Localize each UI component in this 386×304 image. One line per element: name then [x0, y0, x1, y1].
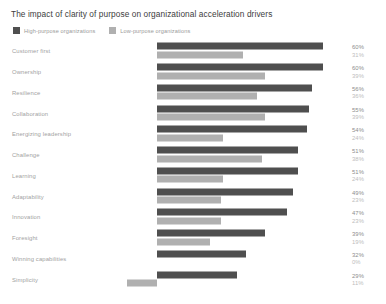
bar-low-purpose	[157, 155, 262, 162]
bar-row: Customer first60%31%	[0, 41, 386, 62]
category-label: Adaptability	[12, 194, 44, 200]
value-low-purpose: 23%	[352, 217, 378, 225]
chart-legend: High-purpose organizations Low-purpose o…	[13, 27, 386, 34]
chart-card: The impact of clarity of purpose on orga…	[0, 0, 386, 304]
bar-high-purpose	[157, 64, 323, 71]
value-low-purpose: 39%	[352, 114, 378, 122]
value-labels: 51%24%	[352, 168, 378, 183]
value-high-purpose: 54%	[352, 127, 378, 135]
category-label: Innovation	[12, 214, 40, 220]
bar-high-purpose	[157, 250, 246, 257]
value-labels: 49%23%	[352, 189, 378, 204]
bar-high-purpose	[157, 271, 237, 278]
bar-group	[157, 187, 337, 206]
bar-row: Energizing leadership54%24%	[0, 124, 386, 145]
bar-low-purpose	[157, 238, 210, 245]
bar-row: Collaboration55%39%	[0, 103, 386, 124]
value-labels: 47%23%	[352, 210, 378, 225]
bar-row: Simplicity29%11%	[0, 269, 386, 290]
bar-high-purpose	[157, 188, 293, 195]
category-label: Simplicity	[12, 277, 38, 283]
value-labels: 60%31%	[352, 44, 378, 59]
value-high-purpose: 39%	[352, 231, 378, 239]
bar-row: Challenge51%38%	[0, 145, 386, 166]
bar-low-purpose	[157, 217, 221, 224]
value-labels: 56%36%	[352, 85, 378, 100]
bar-high-purpose	[157, 209, 287, 216]
legend-label-low-purpose: Low-purpose organizations	[120, 28, 190, 34]
bar-row: Ownership60%39%	[0, 62, 386, 83]
value-high-purpose: 55%	[352, 106, 378, 114]
value-high-purpose: 49%	[352, 189, 378, 197]
category-label: Customer first	[12, 48, 50, 54]
bar-group	[157, 125, 337, 144]
bar-row: Winning capabilities32%0%	[0, 249, 386, 270]
value-low-purpose: 19%	[352, 238, 378, 246]
value-high-purpose: 51%	[352, 168, 378, 176]
category-label: Ownership	[12, 69, 41, 75]
bar-row: Resilience56%36%	[0, 83, 386, 104]
value-high-purpose: 60%	[352, 65, 378, 73]
value-high-purpose: 47%	[352, 210, 378, 218]
bar-group	[157, 63, 337, 82]
bar-high-purpose	[157, 43, 323, 50]
bar-high-purpose	[157, 230, 265, 237]
legend-item-high-purpose[interactable]: High-purpose organizations	[13, 27, 95, 34]
bar-group	[157, 42, 337, 61]
value-high-purpose: 56%	[352, 85, 378, 93]
category-label: Foresight	[12, 235, 38, 241]
bar-group	[157, 104, 337, 123]
category-label: Challenge	[12, 152, 40, 158]
category-label: Collaboration	[12, 111, 48, 117]
category-label: Winning capabilities	[12, 256, 66, 262]
value-low-purpose: 0%	[352, 259, 378, 267]
legend-item-low-purpose[interactable]: Low-purpose organizations	[109, 27, 190, 34]
value-low-purpose: 24%	[352, 134, 378, 142]
category-label: Energizing leadership	[12, 131, 71, 137]
value-low-purpose: 36%	[352, 93, 378, 101]
bar-row: Learning51%24%	[0, 166, 386, 187]
bar-high-purpose	[157, 126, 307, 133]
value-low-purpose: 39%	[352, 72, 378, 80]
bar-low-purpose	[157, 114, 265, 121]
bar-group	[157, 83, 337, 102]
bar-row: Foresight39%19%	[0, 228, 386, 249]
value-labels: 32%0%	[352, 251, 378, 266]
value-labels: 55%39%	[352, 106, 378, 121]
value-low-purpose: 24%	[352, 176, 378, 184]
chart-title: The impact of clarity of purpose on orga…	[11, 9, 386, 19]
bar-rows: Customer first60%31%Ownership60%39%Resil…	[0, 41, 386, 290]
bar-high-purpose	[157, 167, 298, 174]
bar-group	[157, 270, 337, 289]
bar-low-purpose	[127, 280, 157, 287]
value-labels: 51%38%	[352, 148, 378, 163]
bar-group	[157, 229, 337, 248]
bar-low-purpose	[157, 134, 223, 141]
bar-low-purpose	[157, 51, 243, 58]
bar-high-purpose	[157, 84, 312, 91]
value-low-purpose: 38%	[352, 155, 378, 163]
value-high-purpose: 51%	[352, 148, 378, 156]
bar-group	[157, 249, 337, 268]
value-high-purpose: 32%	[352, 251, 378, 259]
bar-low-purpose	[157, 197, 221, 204]
bar-high-purpose	[157, 147, 298, 154]
legend-label-high-purpose: High-purpose organizations	[24, 28, 95, 34]
bar-low-purpose	[157, 176, 223, 183]
bar-group	[157, 146, 337, 165]
bar-group	[157, 208, 337, 227]
bar-row: Adaptability49%23%	[0, 186, 386, 207]
category-label: Resilience	[12, 90, 40, 96]
bar-low-purpose	[157, 93, 257, 100]
category-label: Learning	[12, 173, 36, 179]
value-low-purpose: 31%	[352, 51, 378, 59]
value-high-purpose: 60%	[352, 44, 378, 52]
value-labels: 54%24%	[352, 127, 378, 142]
value-low-purpose: 11%	[352, 280, 378, 288]
value-labels: 60%39%	[352, 65, 378, 80]
value-low-purpose: 23%	[352, 197, 378, 205]
plot-area: Customer first60%31%Ownership60%39%Resil…	[0, 41, 386, 290]
bar-low-purpose	[157, 72, 265, 79]
legend-swatch-low-purpose	[109, 27, 116, 34]
legend-swatch-high-purpose	[13, 27, 20, 34]
